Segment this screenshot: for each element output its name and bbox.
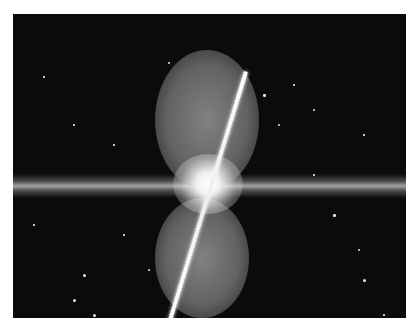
star — [313, 174, 315, 176]
star — [43, 76, 45, 78]
star — [363, 279, 366, 282]
star — [123, 234, 125, 236]
star — [363, 134, 365, 136]
star — [93, 314, 96, 317]
star — [168, 62, 170, 64]
star — [73, 299, 76, 302]
star — [113, 144, 115, 146]
star — [33, 224, 35, 226]
star — [383, 314, 385, 316]
star — [358, 249, 360, 251]
galaxy-core — [173, 154, 243, 214]
star — [148, 269, 150, 271]
star — [83, 274, 86, 277]
star — [313, 109, 315, 111]
galaxy-image — [13, 14, 406, 318]
star — [278, 124, 280, 126]
star — [263, 94, 266, 97]
star — [333, 214, 336, 217]
star — [73, 124, 75, 126]
star — [293, 84, 295, 86]
